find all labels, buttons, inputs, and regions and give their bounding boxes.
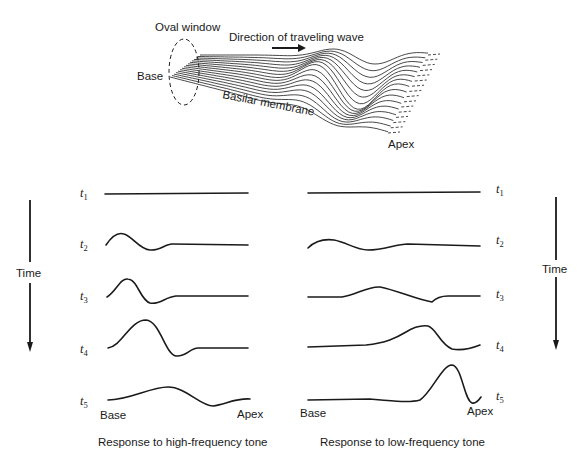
membrane-contour-line xyxy=(176,73,396,120)
panel-low-frequency: t1 t2 t3 t4 t5 Base Apex Response to low… xyxy=(300,182,504,448)
basilar-membrane-label: Basilar membrane xyxy=(222,88,316,118)
membrane-tail-line xyxy=(423,64,435,65)
panel-caption: Response to high-frequency tone xyxy=(98,436,267,448)
membrane-displacement-curve xyxy=(107,279,248,303)
time-step-row: t5 xyxy=(80,387,250,410)
time-step-row: t1 xyxy=(80,186,248,202)
traveling-wave-figure: Oval window Direction of traveling wave … xyxy=(0,0,587,459)
membrane-displacement-curve xyxy=(106,233,248,250)
membrane-tail-line xyxy=(420,70,432,71)
time-arrow-left: Time xyxy=(16,200,41,352)
apex-label-3d: Apex xyxy=(388,138,414,150)
membrane-tail-line xyxy=(425,59,437,60)
membrane-displacement-curve xyxy=(308,365,481,403)
time-arrow-right: Time xyxy=(542,197,567,350)
apex-label: Apex xyxy=(237,408,263,420)
direction-arrow-icon xyxy=(272,44,306,52)
base-label-3d: Base xyxy=(137,70,163,82)
time-step-label: t1 xyxy=(496,182,504,198)
time-step-row: t5 xyxy=(308,365,504,405)
panel-caption: Response to low-frequency tone xyxy=(320,436,485,448)
apex-label: Apex xyxy=(467,405,493,417)
membrane-displacement-curve xyxy=(308,240,480,250)
membrane-tail-line xyxy=(412,85,424,86)
time-step-row: t3 xyxy=(80,279,248,305)
membrane-displacement-curve xyxy=(308,192,480,193)
membrane-displacement-curve xyxy=(108,320,248,356)
membrane-tail-line xyxy=(409,90,421,91)
membrane-tail-line xyxy=(415,80,427,81)
time-step-row: t2 xyxy=(80,233,248,253)
membrane-displacement-curve xyxy=(308,287,480,302)
oval-window-label: Oval window xyxy=(155,21,221,33)
direction-label: Direction of traveling wave xyxy=(229,31,364,43)
base-label: Base xyxy=(100,409,126,421)
time-step-label: t2 xyxy=(80,237,88,253)
membrane-tail-line xyxy=(393,122,405,123)
membrane-tail-line xyxy=(417,75,429,76)
time-step-label: t3 xyxy=(80,289,88,305)
time-step-label: t5 xyxy=(80,394,88,410)
membrane-tail-line xyxy=(388,132,400,133)
time-label-right: Time xyxy=(542,263,567,275)
membrane-displacement-curve xyxy=(308,326,480,350)
membrane-displacement-curve xyxy=(108,387,250,406)
time-step-label: t3 xyxy=(496,287,504,303)
time-step-label: t4 xyxy=(496,338,504,354)
arrow-down-icon xyxy=(27,342,33,352)
time-step-row: t4 xyxy=(308,326,504,354)
time-step-label: t1 xyxy=(80,186,88,202)
base-label: Base xyxy=(300,407,326,419)
time-step-label: t4 xyxy=(80,342,88,358)
membrane-tail-line xyxy=(396,116,408,117)
membrane-tail-line xyxy=(399,111,411,112)
membrane-tail-line xyxy=(428,54,440,55)
time-label-left: Time xyxy=(16,267,41,279)
cochlea-3d-illustration: Oval window Direction of traveling wave … xyxy=(137,21,440,150)
membrane-displacement-curve xyxy=(105,193,248,194)
membrane-tail-line xyxy=(407,96,419,97)
time-step-label: t2 xyxy=(496,233,504,249)
basilar-membrane-lines xyxy=(170,49,440,133)
membrane-tail-line xyxy=(404,101,416,102)
time-step-row: t1 xyxy=(308,182,504,198)
membrane-tail-line xyxy=(401,106,413,107)
panel-high-frequency: t1 t2 t3 t4 t5 Base Apex Response to hig… xyxy=(80,186,267,448)
membrane-tail-line xyxy=(391,127,403,128)
arrow-down-icon xyxy=(553,340,559,350)
time-step-label: t5 xyxy=(496,389,504,405)
time-step-row: t3 xyxy=(308,287,504,303)
time-step-row: t4 xyxy=(80,320,248,358)
time-step-row: t2 xyxy=(308,233,504,250)
